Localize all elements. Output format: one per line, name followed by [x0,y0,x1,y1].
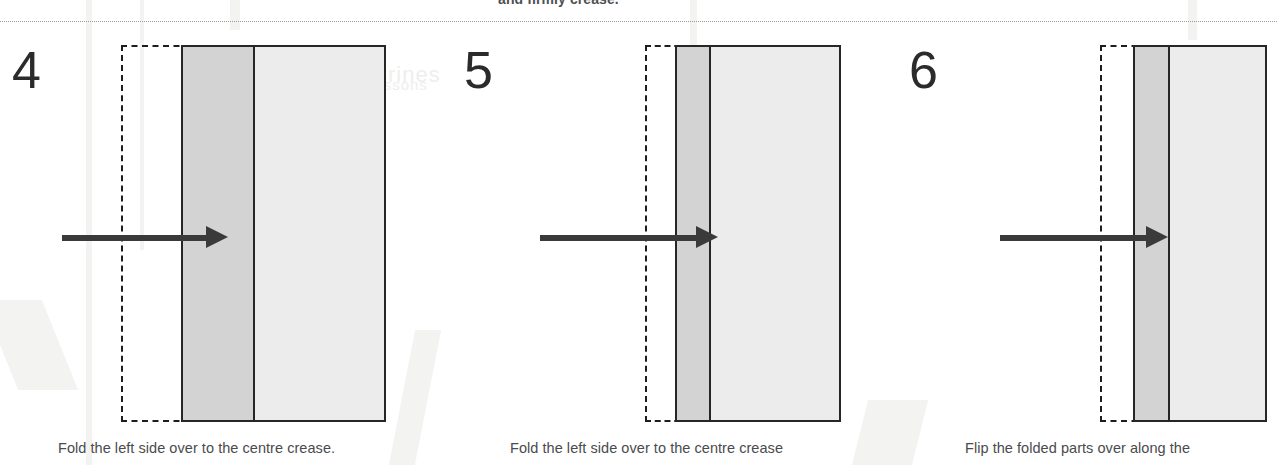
instruction-sheet-page: rines lessons and firmly crease. 4 Fold … [0,0,1277,465]
sheet-face-6 [1170,47,1265,420]
step-caption-5: Fold the left side over to the centre cr… [510,440,783,456]
step-panel-6: 6 Flip the folded parts over along the [900,0,1277,465]
sheet-face-5 [711,47,839,420]
continued-instruction-text: and firmly crease. [498,0,619,7]
fold-direction-arrow-4 [62,232,228,243]
fold-direction-arrow-6 [1000,232,1170,243]
step-number-4: 4 [12,44,41,96]
step-number-5: 5 [464,44,493,96]
step-caption-6: Flip the folded parts over along the [965,440,1190,456]
step-number-6: 6 [909,44,938,96]
step-panel-4: 4 Fold the left side over to the centre … [0,0,455,465]
step-panel-5: 5 Fold the left side over to the centre … [455,0,900,465]
fold-direction-arrow-5 [540,232,720,243]
step-caption-4: Fold the left side over to the centre cr… [58,440,335,456]
section-divider [0,21,1277,22]
sheet-face-4 [255,47,384,420]
